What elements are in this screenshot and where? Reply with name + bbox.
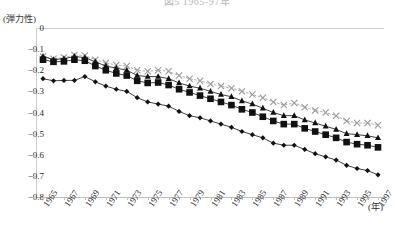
data-point-x bbox=[260, 95, 266, 101]
data-point-x bbox=[323, 109, 329, 115]
data-point-diamond bbox=[208, 118, 213, 123]
data-point-diamond bbox=[239, 129, 244, 134]
data-point-square bbox=[280, 121, 287, 128]
data-point-x bbox=[176, 72, 182, 78]
data-point-diamond bbox=[323, 154, 328, 159]
data-point-square bbox=[364, 142, 371, 149]
data-point-square bbox=[155, 79, 162, 86]
data-point-x bbox=[218, 83, 224, 89]
data-point-diamond bbox=[218, 122, 223, 127]
data-point-square bbox=[375, 144, 382, 151]
data-point-square bbox=[50, 59, 57, 66]
data-point-square bbox=[343, 139, 350, 146]
series-plot bbox=[36, 28, 384, 198]
data-point-square bbox=[71, 56, 78, 63]
data-point-square bbox=[322, 131, 329, 138]
data-point-square bbox=[197, 92, 204, 99]
data-point-square bbox=[123, 72, 130, 79]
series-square bbox=[40, 56, 382, 150]
data-point-diamond bbox=[156, 101, 161, 106]
data-point-diamond bbox=[365, 168, 370, 173]
plot-area: 0−0.1−0.2−0.3−0.4−0.5−0.6−0.7−0.8 196519… bbox=[36, 28, 384, 198]
data-point-square bbox=[270, 118, 277, 125]
data-point-diamond bbox=[344, 163, 349, 168]
data-point-diamond bbox=[302, 147, 307, 152]
data-point-x bbox=[302, 104, 308, 110]
data-point-x bbox=[312, 107, 318, 113]
data-point-diamond bbox=[40, 76, 45, 81]
data-point-diamond bbox=[61, 78, 66, 83]
data-point-diamond bbox=[292, 143, 297, 148]
data-point-diamond bbox=[260, 135, 265, 140]
y-axis-label: (弾力性) bbox=[3, 12, 36, 25]
data-point-x bbox=[291, 100, 297, 106]
data-point-diamond bbox=[51, 78, 56, 83]
data-point-diamond bbox=[176, 109, 181, 114]
data-point-diamond bbox=[145, 99, 150, 104]
data-point-diamond bbox=[124, 89, 129, 94]
data-point-diamond bbox=[114, 87, 119, 92]
data-point-x bbox=[166, 68, 172, 74]
data-point-x bbox=[270, 99, 276, 105]
data-point-x bbox=[375, 122, 381, 128]
data-point-diamond bbox=[197, 115, 202, 120]
data-point-diamond bbox=[187, 113, 192, 118]
data-point-square bbox=[260, 113, 267, 120]
data-point-diamond bbox=[375, 172, 380, 177]
data-point-square bbox=[103, 67, 110, 74]
data-point-x bbox=[249, 91, 255, 97]
data-point-x bbox=[343, 118, 349, 124]
data-point-square bbox=[61, 58, 68, 65]
data-point-square bbox=[291, 121, 298, 128]
data-point-x bbox=[228, 85, 234, 91]
data-point-square bbox=[239, 106, 246, 113]
data-point-diamond bbox=[72, 78, 77, 83]
data-point-diamond bbox=[166, 104, 171, 109]
data-point-diamond bbox=[313, 151, 318, 156]
data-point-square bbox=[92, 63, 99, 70]
data-point-square bbox=[113, 70, 120, 77]
data-point-diamond bbox=[135, 95, 140, 100]
data-point-x bbox=[239, 88, 245, 94]
data-point-diamond bbox=[93, 79, 98, 84]
data-point-square bbox=[354, 141, 361, 148]
data-point-square bbox=[186, 89, 193, 96]
data-point-diamond bbox=[82, 74, 87, 79]
data-point-square bbox=[144, 80, 151, 87]
chart-page: 図5 1965-97年 (弾力性) 0−0.1−0.2−0.3−0.4−0.5−… bbox=[0, 0, 394, 240]
data-point-diamond bbox=[250, 132, 255, 137]
data-point-square bbox=[312, 128, 319, 135]
data-point-x bbox=[207, 81, 213, 87]
data-point-square bbox=[207, 95, 214, 102]
data-point-square bbox=[333, 135, 340, 142]
data-point-square bbox=[134, 78, 141, 85]
data-point-square bbox=[40, 56, 47, 63]
data-point-x bbox=[186, 76, 192, 82]
data-point-square bbox=[249, 109, 256, 116]
data-point-square bbox=[218, 99, 225, 106]
data-point-triangle bbox=[291, 112, 297, 118]
data-point-diamond bbox=[271, 141, 276, 146]
data-point-diamond bbox=[334, 157, 339, 162]
data-point-diamond bbox=[229, 125, 234, 130]
data-point-diamond bbox=[354, 166, 359, 171]
data-point-x bbox=[197, 78, 203, 84]
data-point-diamond bbox=[281, 143, 286, 148]
x-axis-unit-label: (年) bbox=[368, 200, 383, 213]
data-point-triangle bbox=[155, 73, 161, 79]
data-point-diamond bbox=[103, 83, 108, 88]
chart-title: 図5 1965-97年 bbox=[0, 0, 394, 8]
data-point-square bbox=[228, 102, 235, 109]
data-point-square bbox=[301, 125, 308, 132]
data-point-x bbox=[281, 102, 287, 108]
data-point-square bbox=[176, 86, 183, 93]
data-point-square bbox=[165, 82, 172, 89]
data-point-square bbox=[82, 57, 89, 64]
data-point-x bbox=[333, 113, 339, 119]
